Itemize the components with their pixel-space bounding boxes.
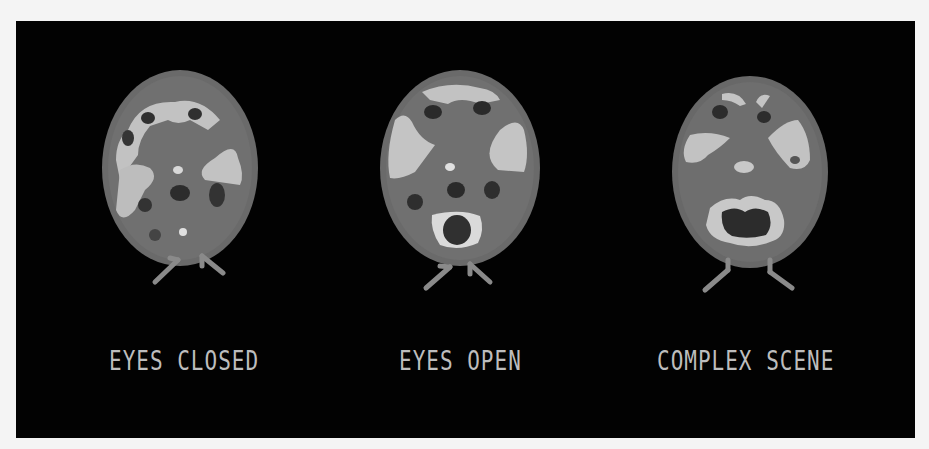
caption-eyes-open: EYES OPEN [399,346,522,376]
brain-scan-eyes-closed [80,60,280,300]
figure-panel: EYES CLOSED EYES OPEN COMPLEX SCENE [16,21,915,438]
caption-complex-scene: COMPLEX SCENE [657,346,834,376]
caption-eyes-closed: EYES CLOSED [109,346,259,376]
brain-scan-complex-scene [650,60,850,300]
brain-scan-eyes-open [360,60,560,300]
